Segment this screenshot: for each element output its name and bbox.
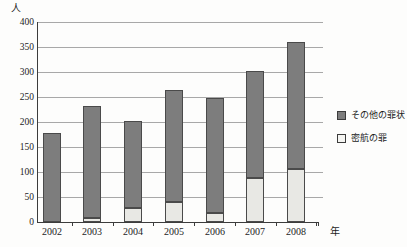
y-tick-label: 50 (4, 192, 34, 203)
x-tick-label: 2005 (154, 226, 194, 237)
legend: その他の罪状 密航の罪 (337, 110, 405, 156)
gridline (37, 22, 323, 23)
legend-swatch-dark-icon (337, 111, 346, 120)
bar-segment-dark (206, 98, 224, 213)
bar-segment-dark (246, 71, 264, 178)
y-tick-label: 100 (4, 167, 34, 178)
y-tick-label: 0 (4, 217, 34, 228)
x-tick-label: 2002 (32, 226, 72, 237)
legend-item-stowaway-crime: 密航の罪 (337, 133, 405, 143)
x-tick-label: 2004 (113, 226, 153, 237)
bar-segment-dark (287, 42, 305, 169)
x-tick-label: 2003 (72, 226, 112, 237)
bar-segment-dark (124, 121, 142, 208)
y-axis-line (37, 22, 38, 222)
bar-segment-light (124, 208, 142, 222)
stacked-bar-chart: 人 400350300250200150100500 2002200320042… (0, 0, 407, 247)
x-tick-label: 2008 (276, 226, 316, 237)
legend-label: その他の罪状 (351, 110, 405, 120)
x-axis-unit-label: 年 (330, 226, 340, 237)
bar-segment-dark (165, 90, 183, 202)
bar-segment-dark (83, 106, 101, 218)
legend-item-other-charges: その他の罪状 (337, 110, 405, 120)
bar-segment-light (287, 169, 305, 222)
gridline (37, 47, 323, 48)
y-tick-label: 300 (4, 67, 34, 78)
x-tick-label: 2007 (235, 226, 275, 237)
bar-segment-light (246, 178, 264, 222)
bar-segment-light (206, 213, 224, 222)
gridline (37, 72, 323, 73)
legend-swatch-light-icon (337, 134, 346, 143)
bar-segment-light (165, 202, 183, 222)
bar-segment-dark (43, 133, 61, 222)
y-tick-label: 400 (4, 17, 34, 28)
y-axis-unit-label: 人 (11, 3, 21, 14)
y-tick-label: 200 (4, 117, 34, 128)
y-tick-label: 250 (4, 92, 34, 103)
x-tick-label: 2006 (195, 226, 235, 237)
y-tick-label: 150 (4, 142, 34, 153)
x-axis-end-tick (318, 222, 319, 226)
legend-label: 密航の罪 (351, 133, 387, 143)
x-axis-tick (316, 222, 317, 226)
y-tick-label: 350 (4, 42, 34, 53)
